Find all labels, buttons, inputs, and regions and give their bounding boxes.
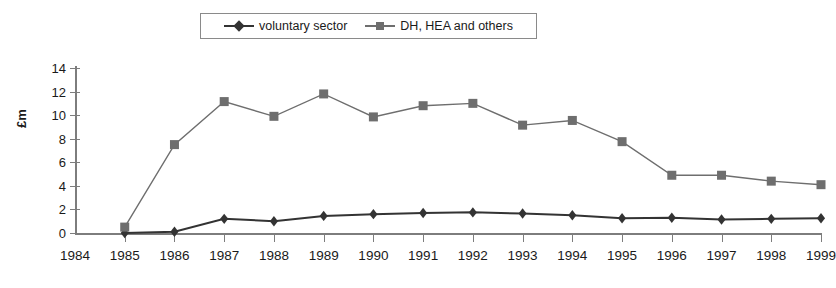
square-marker-icon: [618, 137, 627, 146]
square-marker-icon: [468, 99, 477, 108]
y-tick-mark: [70, 68, 80, 69]
square-marker-icon: [767, 177, 776, 186]
diamond-marker-icon: [320, 211, 328, 221]
diamond-marker-icon: [220, 214, 228, 224]
square-marker-icon: [319, 89, 328, 98]
square-marker-icon: [220, 97, 229, 106]
diamond-marker-icon: [369, 209, 377, 219]
square-marker-icon: [170, 140, 179, 149]
square-marker-icon: [817, 180, 826, 189]
y-tick-mark: [70, 92, 80, 93]
square-marker-icon: [667, 171, 676, 180]
square-marker-icon: [518, 121, 527, 130]
y-tick-mark: [70, 186, 80, 187]
y-tick-mark: [70, 162, 80, 163]
diamond-marker-icon: [170, 227, 178, 237]
square-marker-icon: [120, 223, 129, 232]
diamond-marker-icon: [568, 210, 576, 220]
y-tick-mark: [70, 139, 80, 140]
square-marker-icon: [369, 112, 378, 121]
diamond-marker-icon: [717, 214, 725, 224]
diamond-marker-icon: [618, 213, 626, 223]
diamond-marker-icon: [469, 207, 477, 217]
y-tick-mark: [70, 115, 80, 116]
square-marker-icon: [717, 171, 726, 180]
diamond-marker-icon: [519, 208, 527, 218]
y-tick-mark: [70, 209, 80, 210]
diamond-marker-icon: [270, 216, 278, 226]
square-marker-icon: [419, 101, 428, 110]
y-tick-mark: [70, 233, 80, 234]
series-line: [125, 94, 821, 227]
diamond-marker-icon: [668, 212, 676, 222]
square-marker-icon: [568, 116, 577, 125]
square-marker-icon: [269, 112, 278, 121]
diamond-marker-icon: [419, 208, 427, 218]
diamond-marker-icon: [767, 214, 775, 224]
diamond-marker-icon: [817, 213, 825, 223]
